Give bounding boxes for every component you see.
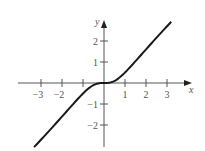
x-tick-label: 2 (144, 89, 149, 100)
y-tick-label: −1 (87, 99, 98, 110)
x-tick-label: −2 (54, 89, 65, 100)
y-tick-label: 2 (93, 36, 98, 47)
chart-figure: −3−2123−2−112 x y (0, 0, 205, 151)
y-tick-label: −2 (87, 120, 98, 131)
chart-svg: −3−2123−2−112 x y (0, 0, 205, 151)
y-tick-label: 1 (93, 57, 98, 68)
x-axis-label: x (188, 84, 194, 95)
x-tick-label: 3 (165, 89, 170, 100)
x-tick-label: −3 (33, 89, 44, 100)
y-axis-arrow-icon (101, 20, 107, 28)
x-tick-label: 1 (123, 89, 128, 100)
y-axis-label: y (94, 16, 100, 27)
